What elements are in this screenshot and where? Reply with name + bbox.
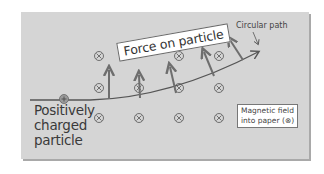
force-arrow-icon [170,67,176,93]
field-into-page-icon [215,114,224,123]
particle-label: Positively charged particle [34,103,95,148]
circular-path-label: Circular path [236,21,288,30]
legend-line: Magnetic field [241,106,294,116]
field-into-page-icon [95,84,104,93]
path-pointer-icon [253,32,258,44]
force-arrow-icon [139,75,140,98]
force-arrow-icon [230,40,243,60]
magnetic-field-legend: Magnetic field into paper (⊗) [237,104,298,128]
legend-line: into paper (⊗) [241,116,294,126]
field-into-page-icon [215,84,224,93]
field-into-page-icon [175,52,184,61]
particle-label-line: charged [34,118,95,133]
field-markers [95,52,224,123]
force-arrow-icon [204,52,214,76]
field-into-page-icon [215,52,224,61]
particle-label-line: particle [34,133,95,148]
field-into-page-icon [135,114,144,123]
field-into-page-icon [95,52,104,61]
field-into-page-icon [95,114,104,123]
particle-label-line: Positively [34,103,95,118]
field-into-page-icon [175,114,184,123]
circular-path-curve [30,52,258,100]
